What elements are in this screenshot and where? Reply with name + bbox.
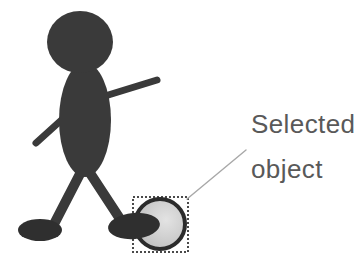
head [47,11,113,73]
drawing-surface: Selected object [0,0,360,266]
leader-line [187,150,246,199]
label-line-2: object [251,154,323,184]
left-leg [52,170,82,228]
label-line-1: Selected [251,109,355,139]
left-foot [18,219,62,241]
illustration-canvas: Selected object [0,0,360,266]
torso [59,63,111,177]
stick-figure [18,11,157,241]
